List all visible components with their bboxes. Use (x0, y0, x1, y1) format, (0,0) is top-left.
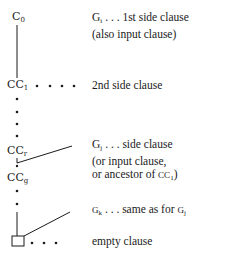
node-ccr: CCr (7, 145, 27, 160)
dots-ccg-vertical (16, 190, 19, 206)
label-gj: Gj . . . side clause (or input clause, o… (92, 138, 177, 185)
dots-cc1-ccr-vertical (16, 98, 19, 138)
edge-gk-empty (24, 212, 70, 236)
label-empty-clause: empty clause (92, 235, 152, 248)
label-gi: Gi . . . 1st side clause (also input cla… (92, 11, 189, 41)
dots-empty-horizontal (31, 242, 58, 245)
label-second-side-clause: 2nd side clause (92, 79, 162, 92)
empty-clause-box (12, 236, 24, 246)
label-gk: Gk . . . same as for Gj (92, 203, 186, 220)
node-ccg: CCg (7, 172, 28, 187)
node-cc1: CC1 (7, 79, 28, 94)
node-c0: C0 (12, 11, 25, 26)
dots-ccr-ccg (16, 165, 18, 167)
dots-cc1-horizontal (36, 85, 76, 88)
